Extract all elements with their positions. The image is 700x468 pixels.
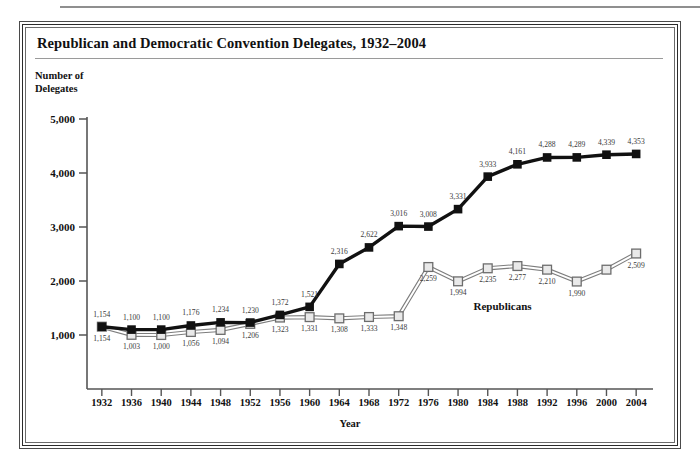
democrats-data-point bbox=[335, 260, 344, 269]
x-tick-label: 1988 bbox=[507, 397, 528, 408]
data-label-democrats: 2,316 bbox=[331, 247, 348, 256]
data-label-republicans: 2,235 bbox=[479, 275, 496, 284]
x-tick-label: 1996 bbox=[566, 397, 587, 408]
democrats-data-point bbox=[365, 243, 374, 252]
y-tick-label: 3,000 bbox=[50, 221, 75, 233]
republicans-data-point bbox=[572, 277, 581, 286]
x-tick-label: 1936 bbox=[121, 397, 142, 408]
x-tick-label: 2000 bbox=[596, 397, 617, 408]
data-label-republicans: 1,994 bbox=[450, 288, 467, 297]
democrats-data-point bbox=[543, 153, 552, 162]
data-label-republicans: 2,210 bbox=[539, 277, 556, 286]
democrats-data-point bbox=[276, 311, 285, 320]
democrats-line bbox=[102, 154, 636, 330]
x-tick-label: 1984 bbox=[477, 397, 498, 408]
data-label-democrats: 1,100 bbox=[153, 313, 170, 322]
plot-area: 1,0002,0003,0004,0005,000193219361940194… bbox=[23, 25, 679, 447]
data-label-republicans: 1,003 bbox=[123, 342, 140, 351]
democrats-data-point bbox=[454, 205, 463, 214]
republicans-data-point bbox=[632, 249, 641, 258]
data-label-democrats: 1,100 bbox=[123, 313, 140, 322]
data-label-democrats: 4,353 bbox=[628, 137, 645, 146]
data-label-democrats: 2,622 bbox=[360, 230, 377, 239]
data-label-democrats: 4,161 bbox=[509, 147, 526, 156]
democrats-data-point bbox=[513, 160, 522, 169]
data-label-democrats: 3,933 bbox=[479, 160, 496, 169]
democrats-data-point bbox=[157, 325, 166, 334]
x-tick-label: 1972 bbox=[388, 397, 409, 408]
x-tick-label: 2004 bbox=[626, 397, 647, 408]
democrats-data-point bbox=[424, 222, 433, 231]
x-tick-label: 1992 bbox=[537, 397, 558, 408]
republicans-line-outer bbox=[102, 254, 636, 335]
republicans-data-point bbox=[424, 263, 433, 272]
republicans-data-point bbox=[365, 313, 374, 322]
democrats-data-point bbox=[246, 318, 255, 327]
data-label-democrats: 3,008 bbox=[420, 210, 437, 219]
y-tick-label: 5,000 bbox=[50, 113, 75, 125]
data-label-republicans: 1,323 bbox=[271, 325, 288, 334]
y-tick-label: 1,000 bbox=[50, 329, 75, 341]
x-tick-label: 1964 bbox=[329, 397, 350, 408]
top-divider-rule bbox=[60, 6, 700, 8]
data-label-republicans: 1,348 bbox=[390, 323, 407, 332]
democrats-data-point bbox=[632, 150, 641, 159]
democrats-data-point bbox=[305, 303, 314, 312]
x-tick-label: 1932 bbox=[91, 397, 112, 408]
x-tick-label: 1952 bbox=[240, 397, 261, 408]
data-label-republicans: 1,206 bbox=[242, 331, 259, 340]
figure-frame: Republican and Democratic Convention Del… bbox=[22, 24, 678, 446]
data-label-republicans: 2,509 bbox=[628, 261, 645, 270]
data-label-democrats: 4,289 bbox=[568, 140, 585, 149]
democrats-data-point bbox=[216, 318, 225, 327]
democrats-data-point bbox=[394, 222, 403, 231]
data-label-democrats: 1,154 bbox=[93, 310, 110, 319]
data-label-democrats: 1,230 bbox=[242, 306, 259, 315]
data-label-democrats: 3,016 bbox=[390, 209, 407, 218]
data-label-democrats: 4,288 bbox=[539, 140, 556, 149]
data-label-republicans: 1,990 bbox=[568, 289, 585, 298]
democrats-data-point bbox=[127, 325, 136, 334]
data-label-democrats: 1,176 bbox=[182, 308, 199, 317]
republicans-data-point bbox=[454, 277, 463, 286]
x-tick-label: 1956 bbox=[269, 397, 290, 408]
democrats-data-point bbox=[98, 322, 107, 331]
data-label-republicans: 1,308 bbox=[331, 325, 348, 334]
republicans-data-point bbox=[543, 265, 552, 274]
x-tick-label: 1976 bbox=[418, 397, 439, 408]
data-label-democrats: 1,521 bbox=[301, 290, 318, 299]
data-label-republicans: 1,000 bbox=[153, 342, 170, 351]
republicans-data-point bbox=[513, 262, 522, 271]
data-label-republicans: 1,056 bbox=[182, 339, 199, 348]
republicans-data-point bbox=[483, 264, 492, 273]
democrats-data-point bbox=[572, 153, 581, 162]
data-label-democrats: 4,339 bbox=[598, 138, 615, 147]
data-label-democrats: 1,234 bbox=[212, 305, 229, 314]
x-tick-label: 1968 bbox=[359, 397, 380, 408]
data-label-republicans: 1,154 bbox=[93, 334, 110, 343]
data-label-republicans: 1,094 bbox=[212, 337, 229, 346]
chart-canvas bbox=[23, 25, 679, 447]
democrats-data-point bbox=[483, 172, 492, 181]
x-tick-label: 1940 bbox=[151, 397, 172, 408]
republicans-data-point bbox=[602, 265, 611, 274]
data-label-republicans: 2,277 bbox=[509, 273, 526, 282]
y-tick-label: 4,000 bbox=[50, 167, 75, 179]
data-label-republicans: 1,333 bbox=[360, 324, 377, 333]
data-label-republicans: 2,259 bbox=[420, 274, 437, 283]
republicans-data-point bbox=[394, 312, 403, 321]
republicans-data-point bbox=[305, 313, 314, 322]
x-tick-label: 1944 bbox=[180, 397, 201, 408]
republicans-data-point bbox=[335, 314, 344, 323]
y-tick-label: 2,000 bbox=[50, 275, 75, 287]
series-annotation-republicans: Republicans bbox=[474, 300, 532, 312]
x-tick-label: 1980 bbox=[448, 397, 469, 408]
x-tick-label: 1960 bbox=[299, 397, 320, 408]
democrats-data-point bbox=[187, 321, 196, 330]
x-tick-label: 1948 bbox=[210, 397, 231, 408]
democrats-data-point bbox=[602, 150, 611, 159]
republicans-data-point bbox=[216, 326, 225, 335]
republicans-line-inner bbox=[102, 254, 636, 335]
data-label-democrats: 3,331 bbox=[450, 192, 467, 201]
data-label-democrats: 1,372 bbox=[271, 298, 288, 307]
